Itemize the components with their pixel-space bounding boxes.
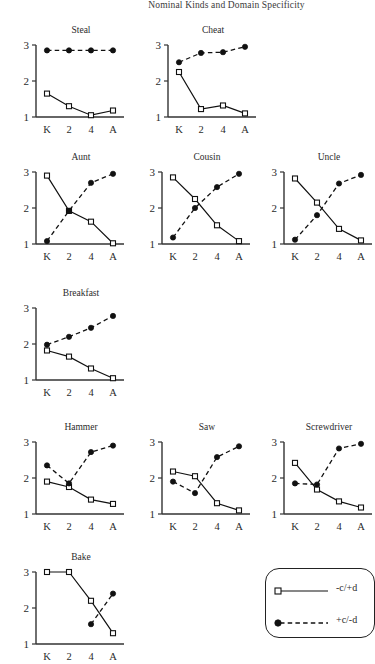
x-tick-label: 2	[66, 124, 71, 135]
data-point	[176, 60, 181, 65]
data-point	[111, 501, 116, 506]
data-point	[111, 241, 116, 246]
series-line--c/+d	[173, 177, 239, 241]
plot-area-bake: 321K24A	[10, 564, 130, 664]
data-point	[314, 482, 319, 487]
x-tick-label: 2	[66, 521, 71, 532]
data-point	[45, 91, 50, 96]
series-line--c/+d	[47, 94, 113, 116]
data-point	[88, 325, 93, 330]
data-point	[110, 171, 115, 176]
data-point	[45, 479, 50, 484]
data-point	[171, 469, 176, 474]
data-point	[337, 499, 342, 504]
data-point	[45, 173, 50, 178]
y-tick-label: 2	[24, 602, 30, 614]
plot-area-saw: 321K24A	[136, 434, 256, 540]
data-point	[89, 219, 94, 224]
data-point	[243, 111, 248, 116]
data-point	[89, 598, 94, 603]
y-tick-label: 3	[150, 166, 156, 178]
data-point	[292, 237, 297, 242]
legend-swatch-solid	[274, 581, 334, 601]
x-tick-label: 4	[88, 251, 94, 262]
chart-panel-cheat: Cheat321K24A	[142, 25, 262, 143]
series-line-+c/-d	[47, 316, 113, 345]
data-point	[337, 226, 342, 231]
x-tick-label: A	[109, 651, 117, 662]
data-point	[315, 487, 320, 492]
data-point	[237, 239, 242, 244]
series-line-+c/-d	[179, 47, 245, 62]
data-point	[67, 354, 72, 359]
series-line--c/+d	[47, 482, 113, 504]
plot-area-uncle: 321K24A	[258, 164, 375, 270]
data-point	[111, 108, 116, 113]
chart-panel-hammer: Hammer321K24A	[10, 422, 130, 540]
series-line-+c/-d	[173, 446, 239, 493]
x-tick-label: 4	[88, 124, 94, 135]
plot-area-cousin: 321K24A	[136, 164, 256, 270]
y-tick-label: 2	[150, 472, 156, 484]
data-point	[88, 48, 93, 53]
chart-title-hammer: Hammer	[10, 422, 130, 432]
data-point	[358, 172, 363, 177]
y-tick-label: 3	[24, 566, 30, 578]
data-point	[242, 44, 247, 49]
y-tick-label: 2	[24, 472, 30, 484]
x-tick-label: K	[43, 521, 51, 532]
data-point	[177, 70, 182, 75]
y-tick-label: 2	[150, 202, 156, 214]
data-point	[44, 239, 49, 244]
chart-panel-saw: Saw321K24A	[136, 422, 256, 540]
data-point	[292, 481, 297, 486]
data-point	[110, 48, 115, 53]
data-point	[214, 185, 219, 190]
x-tick-label: K	[43, 387, 51, 398]
x-tick-label: 2	[66, 651, 71, 662]
x-tick-label: K	[43, 251, 51, 262]
data-point	[214, 455, 219, 460]
y-tick-label: 1	[150, 508, 156, 520]
data-point	[221, 103, 226, 108]
data-point	[89, 366, 94, 371]
y-tick-label: 1	[24, 111, 30, 123]
x-tick-label: 4	[336, 251, 342, 262]
x-tick-label: A	[357, 251, 365, 262]
data-point	[199, 107, 204, 112]
data-point	[236, 444, 241, 449]
data-point	[110, 591, 115, 596]
data-point	[193, 474, 198, 479]
y-tick-label: 1	[150, 238, 156, 250]
y-tick-label: 1	[272, 238, 278, 250]
y-tick-label: 2	[24, 75, 30, 87]
data-point	[89, 497, 94, 502]
x-tick-label: 4	[214, 251, 220, 262]
data-point	[192, 205, 197, 210]
plot-area-breakfast: 321K24A	[10, 300, 130, 406]
series-line-+c/-d	[47, 174, 113, 241]
legend-swatch-dashed	[274, 613, 334, 633]
data-point	[88, 449, 93, 454]
data-point	[88, 622, 93, 627]
legend-entry-dashed: +c/-d	[266, 611, 375, 637]
x-tick-label: A	[109, 521, 117, 532]
data-point	[89, 113, 94, 118]
series-line--c/+d	[179, 72, 245, 113]
x-tick-label: 2	[198, 124, 203, 135]
series-line--c/+d	[173, 472, 239, 511]
x-tick-label: K	[43, 651, 51, 662]
y-tick-label: 3	[24, 436, 30, 448]
x-tick-label: K	[169, 521, 177, 532]
data-point	[66, 48, 71, 53]
chart-title-uncle: Uncle	[258, 152, 375, 162]
data-point	[111, 376, 116, 381]
x-tick-label: K	[169, 251, 177, 262]
data-point	[293, 176, 298, 181]
data-point	[192, 491, 197, 496]
data-point	[45, 348, 50, 353]
y-tick-label: 2	[156, 75, 162, 87]
data-point	[67, 104, 72, 109]
x-tick-label: A	[109, 251, 117, 262]
